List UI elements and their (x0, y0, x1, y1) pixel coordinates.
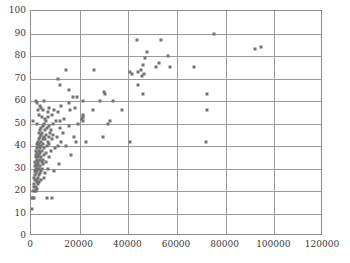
data-point (75, 140, 78, 143)
data-point (68, 102, 71, 105)
data-point (50, 113, 53, 116)
x-tick-label: 40000 (113, 239, 142, 249)
data-point (121, 109, 124, 112)
data-point (53, 109, 56, 112)
data-point (99, 100, 102, 103)
data-point (45, 196, 48, 199)
data-point (52, 133, 55, 136)
data-point (75, 95, 78, 98)
data-point (32, 120, 35, 123)
data-point (81, 113, 84, 116)
data-point (128, 140, 131, 143)
data-point (47, 136, 50, 139)
y-tick-label: 90 (15, 28, 26, 38)
data-point (72, 136, 75, 139)
y-axis: 0102030405060708090100 (0, 0, 26, 263)
data-point (31, 208, 33, 211)
data-point (137, 84, 140, 87)
data-point (43, 172, 46, 175)
x-axis: 020000400006000080000100000120000 (0, 239, 350, 263)
data-point (43, 100, 46, 103)
data-point (46, 167, 49, 170)
x-tick-label: 0 (27, 239, 33, 249)
data-point (42, 176, 45, 179)
y-tick-label: 50 (15, 118, 26, 128)
scatter-chart: 0102030405060708090100 02000040000600008… (0, 0, 350, 263)
data-point (206, 109, 209, 112)
y-tick-label: 100 (9, 5, 26, 15)
data-points-layer (31, 11, 321, 234)
data-point (44, 133, 47, 136)
data-point (70, 154, 73, 157)
data-point (155, 66, 158, 69)
data-point (56, 111, 59, 114)
data-point (68, 109, 71, 112)
data-point (32, 196, 35, 199)
data-point (65, 145, 68, 148)
data-point (111, 100, 114, 103)
data-point (103, 91, 106, 94)
y-tick-label: 70 (15, 73, 26, 83)
data-point (54, 120, 57, 123)
data-point (71, 95, 74, 98)
data-point (109, 120, 112, 123)
data-point (168, 66, 171, 69)
data-point (145, 50, 148, 53)
data-point (253, 48, 256, 51)
data-point (62, 118, 65, 121)
data-point (212, 32, 215, 35)
data-point (46, 111, 49, 114)
data-point (206, 93, 209, 96)
data-point (48, 106, 51, 109)
data-point (141, 93, 144, 96)
data-point (56, 77, 59, 80)
data-point (93, 68, 96, 71)
data-point (193, 66, 196, 69)
data-point (50, 129, 53, 132)
data-point (73, 106, 76, 109)
y-tick-label: 40 (15, 140, 26, 150)
data-point (60, 140, 63, 143)
data-point (35, 122, 38, 125)
data-point (143, 73, 146, 76)
y-tick-label: 10 (15, 208, 26, 218)
data-point (55, 136, 58, 139)
data-point (48, 124, 51, 127)
data-point (67, 88, 70, 91)
data-point (92, 109, 95, 112)
data-point (51, 138, 54, 141)
data-point (37, 113, 40, 116)
x-tick-label: 20000 (64, 239, 93, 249)
data-point (141, 64, 144, 67)
data-point (45, 160, 48, 163)
data-point (128, 70, 131, 73)
data-point (135, 39, 138, 42)
data-point (40, 115, 43, 118)
data-point (157, 61, 160, 64)
x-tick-label: 80000 (210, 239, 239, 249)
plot-area (30, 10, 322, 235)
data-point (59, 120, 62, 123)
data-point (82, 100, 85, 103)
x-tick-label: 100000 (256, 239, 290, 249)
data-point (139, 68, 142, 71)
data-point (167, 55, 170, 58)
data-point (47, 115, 50, 118)
y-tick-label: 60 (15, 95, 26, 105)
data-point (44, 151, 47, 154)
data-point (34, 100, 37, 103)
data-point (50, 196, 53, 199)
x-tick-label: 60000 (162, 239, 191, 249)
data-point (47, 156, 50, 159)
y-tick-label: 30 (15, 163, 26, 173)
data-point (205, 140, 208, 143)
data-point (56, 145, 59, 148)
data-point (259, 46, 262, 49)
data-point (57, 163, 60, 166)
data-point (61, 131, 64, 134)
x-tick-label: 120000 (305, 239, 339, 249)
y-tick-label: 20 (15, 185, 26, 195)
data-point (160, 39, 163, 42)
data-point (58, 127, 61, 130)
y-tick-label: 80 (15, 50, 26, 60)
